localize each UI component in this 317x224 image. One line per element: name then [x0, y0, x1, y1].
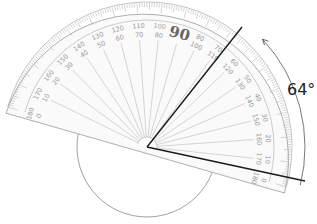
tick — [226, 31, 232, 39]
protractor: 0180101702016030150401405013060120701108… — [6, 2, 292, 193]
tick — [267, 77, 273, 80]
outer-scale-label: 110 — [132, 22, 145, 31]
tick — [243, 47, 250, 54]
tick — [62, 31, 64, 34]
tick — [249, 49, 252, 52]
tick — [259, 60, 262, 62]
tick — [171, 5, 172, 9]
tick — [276, 91, 280, 93]
tick — [181, 7, 182, 11]
tick — [242, 42, 245, 45]
tick — [93, 13, 94, 17]
tick — [105, 9, 106, 13]
tick — [86, 16, 88, 20]
tick — [277, 93, 281, 94]
tick — [137, 3, 138, 13]
inner-scale-label: 160 — [255, 133, 264, 146]
tick — [53, 38, 56, 41]
tick — [73, 24, 75, 27]
tick — [127, 4, 128, 8]
tick — [115, 7, 116, 11]
tick — [260, 62, 263, 64]
tick — [225, 28, 227, 31]
angle-label: 64° — [287, 80, 315, 99]
tick — [264, 69, 267, 71]
tick — [79, 20, 81, 24]
tick — [258, 66, 266, 72]
tick — [273, 84, 277, 86]
tick — [176, 6, 177, 10]
tick — [173, 6, 174, 13]
tick — [283, 115, 287, 116]
tick — [58, 34, 60, 37]
tick — [35, 56, 38, 59]
tick — [169, 5, 170, 9]
tick — [100, 11, 102, 18]
tick — [202, 14, 204, 18]
tick — [193, 11, 194, 15]
tick — [267, 73, 270, 75]
tick — [213, 20, 215, 24]
tick — [254, 54, 257, 57]
tick — [32, 60, 35, 62]
tick — [77, 21, 80, 27]
outer-scale-label: 20 — [264, 134, 273, 143]
tick — [42, 49, 45, 52]
tick — [274, 86, 278, 88]
tick — [206, 18, 210, 27]
tick — [195, 12, 196, 16]
tick — [271, 79, 275, 81]
tick — [282, 110, 286, 111]
tick — [60, 32, 62, 35]
tick — [251, 51, 254, 54]
tick — [284, 120, 288, 121]
tick — [268, 75, 271, 77]
tick — [40, 51, 43, 54]
tick — [246, 45, 249, 48]
tick — [218, 24, 222, 30]
inner-scale-label: 70 — [135, 31, 144, 40]
tick — [112, 7, 114, 17]
tick — [244, 43, 247, 46]
outer-scale-label: 100 — [153, 22, 166, 31]
protractor-svg: 0180101702016030150401405013060120701108… — [0, 0, 317, 224]
tick — [286, 127, 290, 128]
tick — [82, 19, 84, 23]
protractor-diagram: 0180101702016030150401405013060120701108… — [0, 0, 317, 224]
tick — [43, 47, 46, 50]
tick — [206, 16, 208, 20]
outer-scale-label: 10 — [263, 155, 272, 164]
tick — [277, 100, 284, 102]
inner-scale-label: 80 — [154, 31, 163, 40]
tick — [178, 7, 179, 11]
tick — [54, 37, 57, 40]
tick — [95, 13, 96, 17]
tick — [183, 8, 184, 12]
tick — [75, 22, 77, 25]
tick — [110, 8, 111, 12]
tick — [227, 29, 229, 32]
tick — [223, 26, 225, 29]
tick — [262, 64, 265, 66]
tick — [103, 10, 104, 14]
tick — [107, 9, 108, 13]
tick — [221, 25, 223, 28]
tick — [279, 98, 283, 99]
tick — [29, 64, 32, 66]
tick — [161, 4, 162, 14]
tick — [217, 22, 219, 25]
tick — [51, 40, 54, 43]
tick — [49, 42, 52, 45]
tick — [237, 37, 240, 40]
tick — [188, 9, 189, 13]
tick — [285, 122, 289, 123]
tick — [282, 107, 286, 108]
tick — [199, 13, 200, 17]
tick — [241, 40, 244, 43]
tick — [257, 58, 260, 60]
tick — [28, 66, 31, 68]
tick — [215, 21, 217, 24]
tick — [117, 6, 118, 10]
tick — [91, 14, 93, 18]
tick — [190, 10, 191, 14]
